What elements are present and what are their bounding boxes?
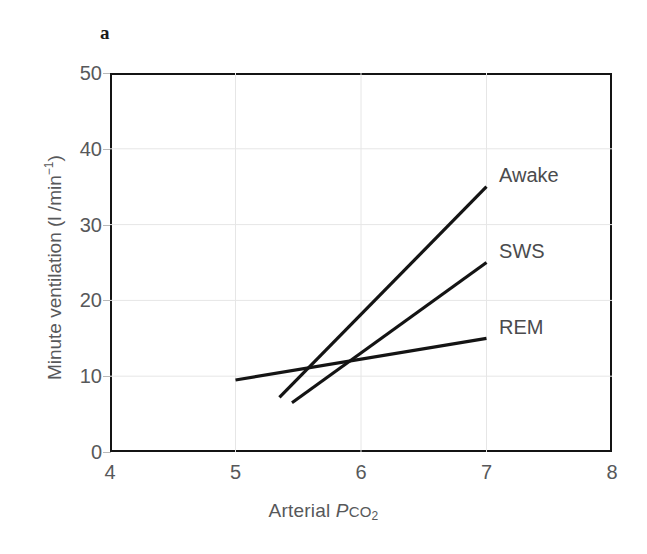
y-tick-label-0: 0: [42, 442, 102, 462]
x-axis-title-italic-p: P: [336, 500, 349, 521]
x-axis-title: Arterial PCO2: [0, 500, 647, 522]
x-tick-label-7: 7: [467, 462, 507, 482]
plot-canvas: [110, 73, 612, 452]
series-label-rem: REM: [499, 317, 543, 337]
x-tick-label-5: 5: [216, 462, 256, 482]
gridlines: [110, 73, 612, 452]
y-axis-title-superscript: −1: [42, 162, 56, 176]
x-tick-label-8: 8: [592, 462, 632, 482]
series-line-awake: [279, 187, 486, 398]
series-label-sws: SWS: [499, 241, 545, 261]
y-tick-label-50: 50: [42, 63, 102, 83]
x-axis-title-smallcaps: CO: [349, 503, 372, 520]
y-axis-title-main: Minute ventilation (l /min: [44, 175, 65, 380]
x-tick-label-6: 6: [341, 462, 381, 482]
figure-panel-a: a 01020304050 AwakeSWSREM 45678 Arterial…: [0, 0, 647, 554]
y-axis-title-suffix: ): [44, 155, 65, 161]
y-axis-title: Minute ventilation (l /min−1): [42, 98, 65, 438]
x-axis-title-subscript: 2: [372, 509, 379, 523]
x-axis-title-prefix: Arterial: [269, 500, 336, 521]
series-label-awake: Awake: [499, 165, 559, 185]
x-axis-tick-labels: 45678: [0, 462, 647, 492]
x-tick-label-4: 4: [90, 462, 130, 482]
y-tick-mark-0: [103, 452, 111, 453]
